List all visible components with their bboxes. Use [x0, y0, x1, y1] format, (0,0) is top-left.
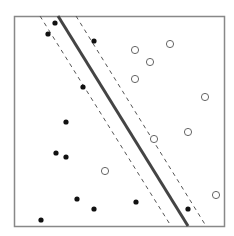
open-data-point [150, 135, 157, 142]
open-data-point [166, 40, 173, 47]
class-open-points [101, 40, 219, 198]
filled-data-point [45, 31, 50, 36]
open-data-point [131, 46, 138, 53]
filled-data-point [38, 217, 43, 222]
open-data-point [101, 167, 108, 174]
open-data-point [201, 93, 208, 100]
filled-data-point [91, 206, 96, 211]
svm-diagram [0, 0, 234, 236]
open-data-point [184, 128, 191, 135]
open-data-point [212, 191, 219, 198]
margin-line-right [76, 16, 206, 226]
open-data-point [146, 58, 153, 65]
filled-data-point [63, 154, 68, 159]
filled-data-point [133, 199, 138, 204]
filled-data-point [53, 150, 58, 155]
filled-data-point [63, 119, 68, 124]
filled-data-point [80, 84, 85, 89]
filled-data-point [52, 20, 57, 25]
filled-data-point [74, 196, 79, 201]
plot-frame [15, 17, 225, 227]
filled-data-point [185, 206, 190, 211]
svm-plot [0, 0, 234, 236]
open-data-point [131, 75, 138, 82]
filled-data-point [91, 38, 96, 43]
margin-line-left [40, 16, 171, 226]
